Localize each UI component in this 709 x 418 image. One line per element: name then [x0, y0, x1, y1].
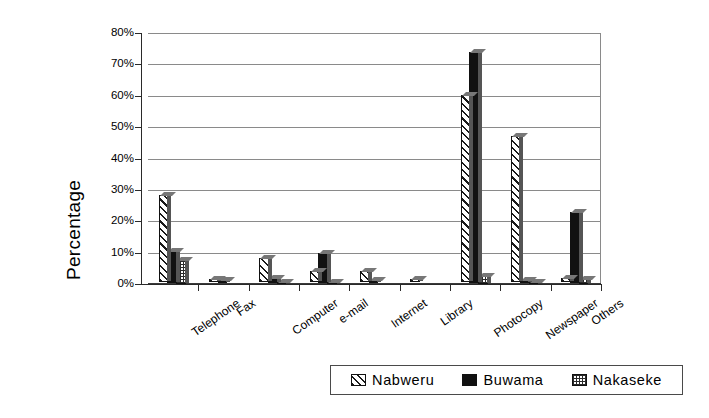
- bar-nakaseke-newspaper: [529, 282, 539, 285]
- bar-buwama-internet: [369, 280, 379, 283]
- bar-nabweru-library: [410, 279, 420, 282]
- gridline: [148, 190, 601, 191]
- legend-item-buwama[interactable]: Buwama: [462, 372, 543, 388]
- y-axis-tick-label: 20%: [111, 215, 134, 227]
- legend-swatch-buwama: [462, 374, 477, 386]
- x-axis-tick: [400, 285, 401, 291]
- x-axis-tick: [551, 285, 552, 291]
- y-axis-tick: [135, 33, 142, 34]
- y-axis-tick: [135, 96, 142, 97]
- y-axis-tick-label: 60%: [111, 90, 134, 102]
- gridline: [148, 64, 601, 65]
- x-axis-tick: [349, 285, 350, 291]
- bar-side-face: [327, 250, 331, 282]
- y-axis-tick-label: 70%: [111, 58, 134, 70]
- legend-swatch-nakaseke: [572, 374, 587, 386]
- bar-buwama-fax: [218, 280, 228, 283]
- gridline: [148, 159, 601, 160]
- bar-side-face: [167, 192, 171, 280]
- bar-top-face: [571, 209, 587, 213]
- x-axis-tick: [249, 285, 250, 291]
- bar-nabweru-newspaper: [511, 136, 521, 282]
- bar-side-face: [469, 92, 473, 281]
- bar-buwama-others: [570, 212, 580, 283]
- x-axis-tick-label: Telephone: [189, 296, 242, 339]
- bar-nabweru-others: [561, 278, 571, 281]
- plot-area: [148, 33, 601, 284]
- x-axis-tick-label: Library: [437, 296, 475, 329]
- gridline: [148, 253, 601, 254]
- bar-nabweru-fax: [209, 279, 219, 282]
- gridline: [148, 221, 601, 222]
- x-axis-tick: [299, 285, 300, 291]
- gridline: [148, 127, 601, 128]
- bar-top-face: [470, 49, 486, 53]
- gridline: [148, 33, 601, 34]
- legend-label: Nakaseke: [593, 372, 662, 388]
- bar-side-face: [176, 248, 180, 281]
- y-axis-tick-label: 10%: [111, 247, 134, 259]
- chart-legend: NabweruBuwamaNakaseke: [330, 365, 683, 395]
- bar-nabweru-photocopy: [461, 95, 471, 282]
- gridline: [148, 96, 601, 97]
- bar-nabweru-telephone: [159, 195, 169, 281]
- bar-side-face: [519, 133, 523, 281]
- bar-side-face: [478, 49, 482, 282]
- x-axis-tick: [500, 285, 501, 291]
- y-axis-tick-label: 40%: [111, 153, 134, 165]
- bar-top-face: [361, 268, 377, 272]
- bar-nabweru-e-mail: [310, 271, 320, 282]
- y-axis-tick-label: 80%: [111, 27, 134, 39]
- y-axis-title: Percentage: [56, 0, 92, 280]
- legend-swatch-nabweru: [351, 374, 366, 386]
- y-axis-tick: [135, 127, 142, 128]
- x-axis-tick-label: Photocopy: [491, 296, 545, 340]
- bar-nakaseke-e-mail: [327, 282, 337, 285]
- bar-side-face: [185, 257, 189, 283]
- legend-label: Nabweru: [372, 372, 434, 388]
- bar-nakaseke-computer: [277, 282, 287, 285]
- bar-top-face: [260, 255, 276, 259]
- bar-nabweru-internet: [360, 271, 370, 282]
- bar-nabweru-computer: [259, 258, 269, 282]
- y-axis-tick: [135, 221, 142, 222]
- x-axis-tick-label: e-mail: [336, 296, 371, 326]
- bar-top-face: [160, 192, 176, 196]
- x-axis-line: [141, 284, 602, 285]
- bar-top-face: [411, 276, 427, 280]
- bar-side-face: [579, 209, 583, 282]
- x-axis-tick: [198, 285, 199, 291]
- x-axis-tick-label: Internet: [388, 296, 429, 331]
- legend-item-nakaseke[interactable]: Nakaseke: [572, 372, 662, 388]
- y-axis-tick-label: 50%: [111, 121, 134, 133]
- y-axis-tick-label: 30%: [111, 184, 134, 196]
- x-axis-tick-label: Computer: [289, 296, 340, 338]
- y-axis-tick: [135, 159, 142, 160]
- x-axis-tick: [450, 285, 451, 291]
- x-axis-tick: [601, 285, 602, 291]
- y-axis-tick: [135, 64, 142, 65]
- y-axis-tick-label: 0%: [117, 278, 134, 290]
- bar-top-face: [512, 133, 528, 137]
- legend-item-nabweru[interactable]: Nabweru: [351, 372, 434, 388]
- y-axis-tick: [135, 253, 142, 254]
- legend-label: Buwama: [483, 372, 543, 388]
- y-axis-tick: [135, 190, 142, 191]
